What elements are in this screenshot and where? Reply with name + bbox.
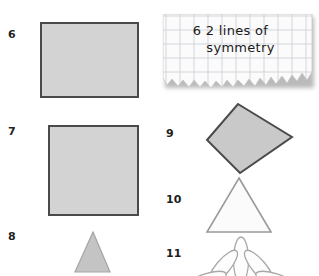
shape-flower-11 — [195, 236, 287, 276]
shape-square-7 — [48, 125, 139, 216]
shape-kite-9 — [203, 100, 297, 178]
question-number-11: 11 — [166, 248, 181, 259]
note-torn-paper — [163, 14, 314, 90]
shape-rectangle-6 — [40, 22, 139, 98]
shape-triangle-10 — [203, 175, 277, 235]
question-number-10: 10 — [166, 194, 181, 205]
answer-note: 6 2 lines of symmetry — [163, 14, 314, 90]
question-number-7: 7 — [8, 126, 16, 137]
question-number-6: 6 — [8, 29, 16, 40]
shape-narrow-triangle-8 — [60, 230, 130, 272]
question-number-8: 8 — [8, 231, 16, 242]
question-number-9: 9 — [166, 128, 174, 139]
